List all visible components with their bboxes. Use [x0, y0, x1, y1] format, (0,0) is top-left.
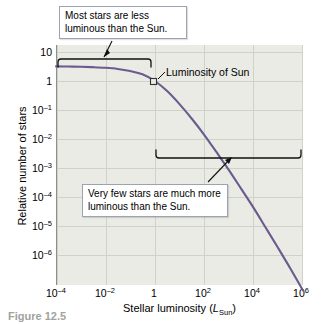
y-tick-label: 10–1: [32, 105, 52, 116]
y-tick-label: 10–5: [32, 221, 52, 232]
y-tick-label: 10–6: [32, 250, 52, 261]
callout-line-2: luminous than the Sun.: [88, 201, 222, 214]
y-tick-label: 10: [40, 47, 52, 58]
y-tick-label: 1: [46, 76, 52, 87]
x-axis-title: Stellar luminosity (LSun): [56, 302, 303, 314]
x-tick-label: 102: [195, 288, 211, 299]
x-tick-label: 10–4: [46, 288, 66, 299]
callout-line-1: Very few stars are much more: [88, 188, 222, 201]
callout-line-1: Most stars are less: [65, 10, 181, 23]
y-tick-label: 10–3: [32, 163, 52, 174]
y-tick-label: 10–4: [32, 192, 52, 203]
figure-caption: Figure 12.5: [8, 310, 66, 324]
x-tick-label: 10–2: [95, 288, 115, 299]
plot-area: [56, 45, 303, 285]
figure-root: 10 1 10–1 10–2 10–3 10–4 10–5 10–6 10–4 …: [0, 0, 325, 324]
gridline-horizontal: [57, 110, 303, 111]
gridline-horizontal: [57, 81, 303, 82]
gridline-horizontal: [57, 226, 303, 227]
y-tick-label: 10–2: [32, 134, 52, 145]
x-tick-label: 104: [244, 288, 260, 299]
gridline-horizontal: [57, 139, 303, 140]
gridline-horizontal: [57, 52, 303, 53]
callout-most-stars: Most stars are less luminous than the Su…: [59, 6, 187, 39]
sun-luminosity-label: Luminosity of Sun: [166, 66, 249, 78]
x-tick-label: 106: [293, 288, 309, 299]
gridline-horizontal: [57, 255, 303, 256]
callout-line-2: luminous than the Sun.: [65, 23, 181, 36]
gridline-horizontal: [57, 168, 303, 169]
y-axis-title: Relative number of stars: [16, 66, 28, 266]
callout-very-few-stars: Very few stars are much more luminous th…: [82, 184, 228, 217]
x-tick-label: 1: [151, 288, 157, 299]
